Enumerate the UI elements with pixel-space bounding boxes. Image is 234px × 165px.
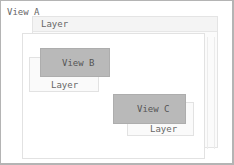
view-b-layer-label: Layer bbox=[51, 80, 78, 90]
view-a-layer-edge bbox=[207, 37, 215, 149]
view-c-box: View C bbox=[113, 94, 186, 124]
view-a-layer-label: Layer bbox=[41, 19, 68, 29]
view-c-layer-label: Layer bbox=[150, 124, 177, 134]
view-a-layer-title-bar: Layer bbox=[33, 17, 217, 32]
view-b-label: View B bbox=[62, 58, 95, 68]
view-b-box: View B bbox=[40, 48, 110, 77]
view-c-label: View C bbox=[137, 104, 170, 114]
